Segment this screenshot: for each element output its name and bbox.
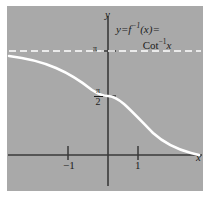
equation-variable: x (166, 38, 171, 50)
equation-exponent-1: −1 (131, 21, 140, 30)
y-axis-label: y (105, 9, 110, 20)
fraction-denominator: 2 (92, 97, 104, 107)
equation-equals-2: = (152, 23, 159, 35)
equation-cot: Cot (143, 38, 159, 50)
figure-container: y x π π 2 −1 1 y=f−1(x)= Cot−1x (0, 0, 212, 198)
y-tick-label-pi-half: π 2 (92, 87, 104, 107)
curve-arccot (9, 56, 199, 155)
x-tick-label-pos1: 1 (135, 160, 141, 171)
y-tick-label-pi: π (93, 45, 97, 53)
equation-argument: (x) (140, 23, 152, 35)
fraction-numerator: π (92, 87, 104, 95)
x-tick-label-neg1: −1 (63, 160, 75, 171)
equation-line-1: y=f−1(x)= (116, 21, 202, 37)
x-axis-label: x (196, 152, 201, 163)
equation-annotation: y=f−1(x)= Cot−1x (116, 21, 202, 52)
equation-line-2: Cot−1x (116, 37, 202, 53)
